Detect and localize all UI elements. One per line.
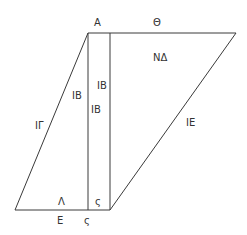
label-strip-lower: IB <box>91 104 101 115</box>
diagram-canvas: A Θ NΔ IB IB IB IΓ IE Λ ς E ς <box>0 0 247 235</box>
label-top-vertex: A <box>94 17 101 28</box>
right-slant-line <box>110 33 236 210</box>
label-bottom-inner-left: Λ <box>58 196 65 207</box>
label-bottom-inner-strip: ς <box>95 196 101 207</box>
label-bottom-outer-strip: ς <box>84 215 90 226</box>
label-left-region: IB <box>72 90 82 101</box>
label-top-edge: Θ <box>153 17 161 28</box>
label-strip-upper: IB <box>97 80 107 91</box>
label-right-edge: IE <box>186 117 195 128</box>
label-bottom-outer-left: E <box>57 215 63 226</box>
label-right-region: NΔ <box>153 52 167 63</box>
left-slant-line <box>15 33 88 210</box>
label-left-edge: IΓ <box>35 120 44 131</box>
